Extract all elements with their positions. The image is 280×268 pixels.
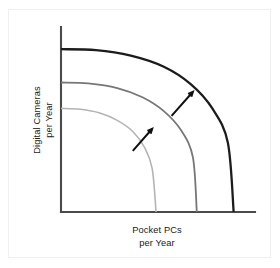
y-axis-label-line1: Digital Cameras xyxy=(32,86,42,154)
shift-arrows-group xyxy=(133,92,193,151)
shift-arrow-lower xyxy=(133,129,152,151)
x-axis-label: Pocket PCs per Year xyxy=(132,225,182,248)
x-axis-label-line1: Pocket PCs xyxy=(132,225,182,235)
ppf-curve-middle xyxy=(61,83,197,213)
y-axis-label-line2: per Year xyxy=(44,102,54,137)
ppf-chart: Pocket PCs per Year Digital Cameras per … xyxy=(0,0,280,268)
ppf-curve-inner xyxy=(61,108,156,212)
figure-root: Pocket PCs per Year Digital Cameras per … xyxy=(0,0,280,268)
shift-arrow-upper xyxy=(172,92,193,116)
axes-group xyxy=(61,27,255,212)
y-axis-label: Digital Cameras per Year xyxy=(32,86,54,154)
x-axis-label-line2: per Year xyxy=(139,238,174,248)
